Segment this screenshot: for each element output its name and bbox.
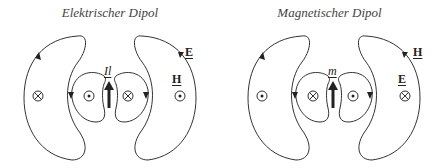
electric-dipole-diagram: [0, 0, 220, 168]
out-of-page-icons: [84, 91, 185, 101]
outer-field-label: E: [185, 45, 193, 60]
panel-magnetic-dipole: Magnetischer Dipol m H E: [220, 0, 439, 168]
into-page-icons: [308, 91, 410, 101]
panel-electric-dipole: Elektrischer Dipol: [0, 0, 220, 168]
source-label: Il: [104, 64, 111, 79]
dipole-arrow-icon: [104, 81, 114, 108]
magnetic-dipole-diagram: [220, 0, 439, 168]
inner-field-label: H: [172, 72, 181, 87]
dipole-arrow-icon: [328, 81, 338, 108]
outer-field-label: H: [413, 45, 422, 60]
source-label: m: [328, 64, 337, 79]
inner-field-label: E: [398, 72, 406, 87]
